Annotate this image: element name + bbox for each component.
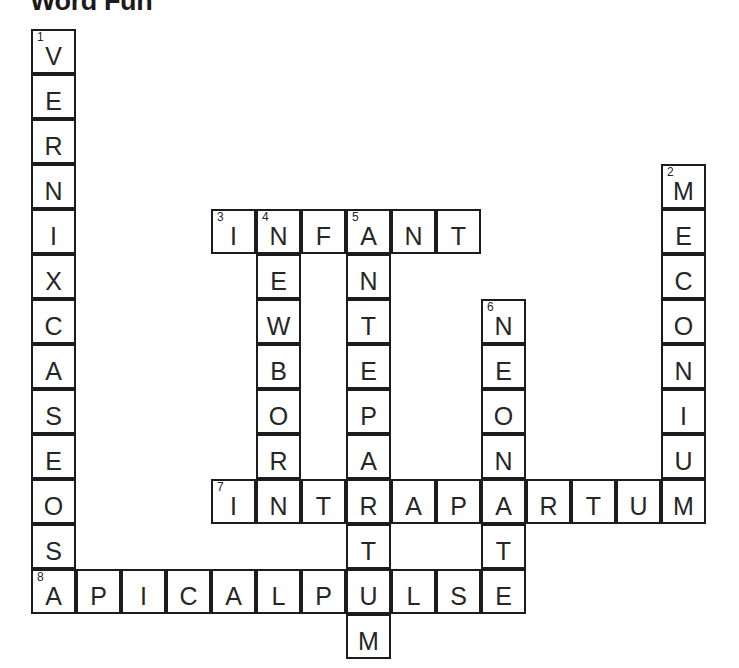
crossword-cell[interactable]: A [31, 344, 76, 389]
crossword-cell[interactable]: T [481, 524, 526, 569]
crossword-cell[interactable]: C [166, 569, 211, 614]
crossword-cell[interactable]: N [256, 479, 301, 524]
crossword-cell[interactable]: T [436, 209, 481, 254]
crossword-cell[interactable]: X [31, 254, 76, 299]
crossword-cell[interactable]: O [481, 389, 526, 434]
crossword-cell[interactable]: L [256, 569, 301, 614]
cell-letter: C [663, 268, 704, 294]
crossword-cell[interactable]: E [256, 254, 301, 299]
cell-letter: F [303, 223, 344, 249]
cell-letter: N [33, 178, 74, 204]
cell-letter: I [213, 223, 254, 249]
crossword-cell[interactable]: E [481, 569, 526, 614]
cell-letter: X [33, 268, 74, 294]
crossword-cell[interactable]: N [31, 164, 76, 209]
cell-letter: A [483, 493, 524, 519]
crossword-cell[interactable]: I [31, 209, 76, 254]
crossword-cell[interactable]: T [346, 524, 391, 569]
cell-letter: C [33, 313, 74, 339]
crossword-cell[interactable]: 7I [211, 479, 256, 524]
crossword-cell[interactable]: A [391, 479, 436, 524]
cell-letter: C [168, 583, 209, 609]
cell-letter: R [528, 493, 569, 519]
cell-letter: T [348, 313, 389, 339]
crossword-cell[interactable]: N [661, 344, 706, 389]
crossword-cell[interactable]: S [31, 389, 76, 434]
crossword-cell[interactable]: S [436, 569, 481, 614]
crossword-cell[interactable]: 3I [211, 209, 256, 254]
crossword-cell[interactable]: U [661, 434, 706, 479]
cell-letter: L [393, 583, 434, 609]
cell-letter: T [438, 223, 479, 249]
cell-letter: O [33, 493, 74, 519]
cell-letter: S [33, 403, 74, 429]
crossword-cell[interactable]: P [76, 569, 121, 614]
cell-letter: O [258, 403, 299, 429]
crossword-cell[interactable]: A [211, 569, 256, 614]
crossword-cell[interactable]: 6N [481, 299, 526, 344]
cell-letter: R [33, 133, 74, 159]
cell-letter: P [348, 403, 389, 429]
crossword-cell[interactable]: R [31, 119, 76, 164]
crossword-cell[interactable]: N [346, 254, 391, 299]
cell-letter: M [663, 178, 704, 204]
crossword-cell[interactable]: 1V [31, 29, 76, 74]
crossword-cell[interactable]: P [346, 389, 391, 434]
crossword-cell[interactable]: U [346, 569, 391, 614]
crossword-cell[interactable]: M [661, 479, 706, 524]
crossword-cell[interactable]: 4N [256, 209, 301, 254]
crossword-cell[interactable]: O [31, 479, 76, 524]
crossword-cell[interactable]: C [661, 254, 706, 299]
crossword-cell[interactable]: B [256, 344, 301, 389]
crossword-cell[interactable]: I [121, 569, 166, 614]
crossword-cell[interactable]: E [661, 209, 706, 254]
crossword-cell[interactable]: O [661, 299, 706, 344]
cell-letter: N [348, 268, 389, 294]
crossword-cell[interactable]: 5A [346, 209, 391, 254]
crossword-cell[interactable]: 8A [31, 569, 76, 614]
cell-letter: I [213, 493, 254, 519]
cell-letter: E [33, 88, 74, 114]
crossword-grid[interactable]: 1VERNIXCASEOS8A2MECONIUM3I4NF5ANTEWBORNN… [0, 0, 739, 668]
crossword-cell[interactable]: N [481, 434, 526, 479]
crossword-cell[interactable]: O [256, 389, 301, 434]
crossword-cell[interactable]: E [346, 344, 391, 389]
cell-letter: I [123, 583, 164, 609]
crossword-cell[interactable]: P [301, 569, 346, 614]
cell-letter: T [348, 538, 389, 564]
cell-letter: W [258, 313, 299, 339]
crossword-cell[interactable]: T [571, 479, 616, 524]
crossword-cell[interactable]: E [481, 344, 526, 389]
crossword-cell[interactable]: N [391, 209, 436, 254]
crossword-cell[interactable]: T [346, 299, 391, 344]
crossword-cell[interactable]: C [31, 299, 76, 344]
cell-letter: R [258, 448, 299, 474]
crossword-cell[interactable]: M [346, 614, 391, 659]
crossword-cell[interactable]: A [481, 479, 526, 524]
crossword-cell[interactable]: R [256, 434, 301, 479]
crossword-cell[interactable]: 2M [661, 164, 706, 209]
crossword-cell[interactable]: P [436, 479, 481, 524]
cell-letter: L [258, 583, 299, 609]
cell-letter: T [483, 538, 524, 564]
cell-letter: N [258, 493, 299, 519]
crossword-cell[interactable]: R [526, 479, 571, 524]
crossword-cell[interactable]: U [616, 479, 661, 524]
crossword-cell[interactable]: I [661, 389, 706, 434]
crossword-cell[interactable]: E [31, 74, 76, 119]
crossword-cell[interactable]: F [301, 209, 346, 254]
crossword-cell[interactable]: R [346, 479, 391, 524]
crossword-cell[interactable]: A [346, 434, 391, 479]
crossword-cell[interactable]: L [391, 569, 436, 614]
cell-letter: R [348, 493, 389, 519]
cell-letter: A [393, 493, 434, 519]
crossword-cell[interactable]: W [256, 299, 301, 344]
cell-letter: P [78, 583, 119, 609]
cell-letter: E [258, 268, 299, 294]
crossword-cell[interactable]: T [301, 479, 346, 524]
cell-letter: N [393, 223, 434, 249]
cell-letter: U [618, 493, 659, 519]
cell-letter: E [483, 358, 524, 384]
crossword-cell[interactable]: E [31, 434, 76, 479]
crossword-cell[interactable]: S [31, 524, 76, 569]
